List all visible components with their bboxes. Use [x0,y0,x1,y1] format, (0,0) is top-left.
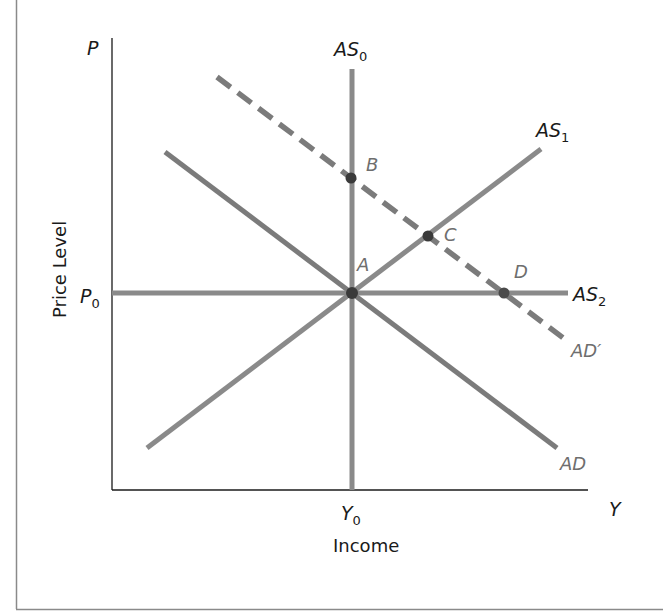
as1-curve [147,149,541,448]
ad-prime-curve [217,77,566,340]
y-axis-symbol: P [87,37,99,59]
point-b [346,173,357,184]
y-axis-title: Price Level [49,221,70,318]
ad-prime-label: AD′ [570,340,601,361]
ad-curve [165,152,557,448]
x-axis-symbol: Y [609,498,622,520]
as2-label: AS2 [571,283,606,309]
point-c-label: C [444,224,457,245]
point-b-label: B [366,154,378,175]
as1-label: AS1 [534,119,569,145]
point-d-label: D [514,261,528,282]
y-tick-p0: P0 [80,285,100,311]
point-d [499,288,510,299]
ad-as-diagram: A B C D P Y P0 Y0 Income Price Level AS0… [0,0,663,616]
as0-label: AS0 [332,38,367,64]
x-tick-y0: Y0 [341,502,361,528]
ad-label: AD [559,453,586,474]
point-c [423,231,434,242]
point-a-label: A [356,254,369,275]
point-a [346,287,358,299]
x-axis-title: Income [333,535,399,556]
